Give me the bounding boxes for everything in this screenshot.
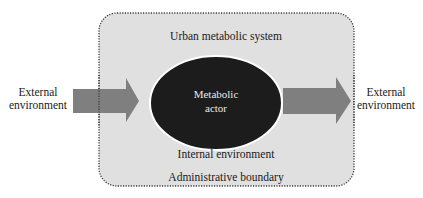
metabolism-diagram: Urban metabolic system Metabolic actor I… bbox=[0, 0, 423, 198]
left-external-label-line1: External bbox=[19, 86, 58, 98]
system-label: Urban metabolic system bbox=[170, 30, 282, 43]
internal-environment-label: Internal environment bbox=[178, 148, 276, 160]
administrative-boundary-label: Administrative boundary bbox=[168, 171, 284, 184]
left-external-label-line2: environment bbox=[9, 99, 68, 111]
actor-label-line1: Metabolic bbox=[194, 88, 239, 100]
right-external-label-line2: environment bbox=[357, 99, 416, 111]
actor-label-line2: actor bbox=[205, 102, 227, 114]
right-external-label-line1: External bbox=[367, 86, 406, 98]
